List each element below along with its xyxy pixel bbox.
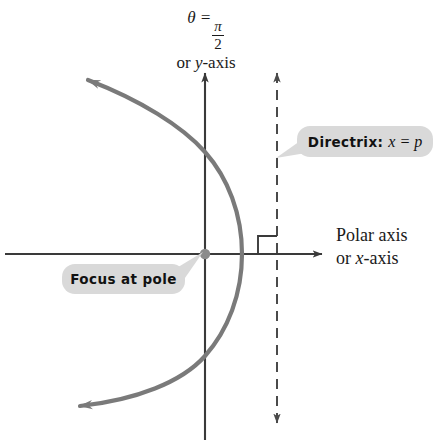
y-axis-alt-suffix: -axis [202, 53, 235, 72]
fraction-denominator: 2 [212, 36, 224, 52]
figure-canvas: θ = π 2 or y-axis Polar axis or x-axis F… [0, 0, 441, 440]
focus-callout-text: Focus at pole [70, 271, 176, 287]
parabola-upper-branch [88, 80, 242, 254]
polar-axis-alt-prefix: or [336, 248, 356, 268]
focus-at-pole-callout: Focus at pole [62, 264, 185, 294]
polar-axis-line2: or x-axis [336, 247, 408, 270]
y-axis-alt-label: or y-axis [146, 53, 266, 72]
directrix-callout: Directrix:x = p [297, 126, 433, 157]
theta-equation-line: θ = π 2 [146, 8, 266, 52]
y-axis-alt-prefix: or [176, 53, 194, 72]
polar-axis-line1: Polar axis [336, 224, 408, 247]
x-axis-label: Polar axis or x-axis [336, 224, 408, 270]
theta-equation-text: θ = [187, 8, 211, 27]
right-angle-marker [258, 236, 277, 254]
polar-axis-alt-variable: x [356, 248, 364, 268]
polar-axis-alt-suffix: -axis [364, 248, 399, 268]
y-axis-label: θ = π 2 or y-axis [146, 8, 266, 72]
directrix-callout-text: Directrix: [308, 134, 384, 150]
directrix-equation: x = p [388, 133, 422, 151]
pi-over-two-fraction: π 2 [212, 19, 224, 53]
fraction-numerator: π [212, 19, 224, 35]
